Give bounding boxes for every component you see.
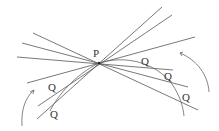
- label-q: Q: [141, 55, 149, 67]
- point-p-marker: [98, 62, 100, 64]
- label-p: P: [93, 47, 99, 59]
- label-q: Q: [48, 81, 56, 93]
- secant-tangent-diagram: PQQQQQ: [0, 0, 219, 131]
- label-q: Q: [164, 70, 172, 82]
- label-q: Q: [50, 108, 58, 120]
- left-arrow-icon: [22, 90, 34, 126]
- secant-lines: [17, 7, 198, 119]
- label-q: Q: [182, 91, 190, 103]
